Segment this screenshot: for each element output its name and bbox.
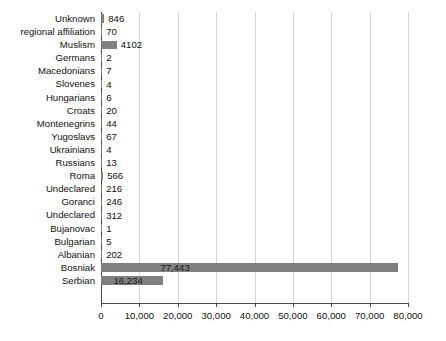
x-axis-tick: [178, 303, 179, 307]
bar-row: 216: [101, 182, 408, 195]
category-label: Bosniak: [0, 261, 99, 274]
bar-value-label: 77,443: [160, 261, 189, 274]
bar: [101, 263, 398, 271]
bar-row: 77,443: [101, 261, 408, 274]
bar-row: 70: [101, 25, 408, 38]
category-label: Montenegrins: [0, 117, 99, 130]
x-tick-label: 30,000: [201, 310, 230, 321]
bar-value-label: 67: [102, 130, 117, 143]
x-axis-tick: [408, 303, 409, 307]
category-label: Undeclared: [0, 182, 99, 195]
category-label: Albanian: [0, 248, 99, 261]
bar-value-label: 202: [102, 248, 122, 261]
x-axis-tick: [216, 303, 217, 307]
bar-row: 1: [101, 222, 408, 235]
category-label: regional affiliation: [0, 25, 99, 38]
bar-value-label: 2: [102, 51, 111, 64]
bar-value-label: 846: [104, 12, 124, 25]
category-label: Ukrainians: [0, 143, 99, 156]
bar-row: 13: [101, 156, 408, 169]
category-label: Unknown: [0, 12, 99, 25]
bar-row: 44: [101, 117, 408, 130]
category-label: Undeclared: [0, 208, 99, 221]
bar: [101, 41, 117, 49]
category-label: Bujanovac: [0, 222, 99, 235]
bar-row: 4102: [101, 38, 408, 51]
bar-row: 16,234: [101, 274, 408, 287]
x-tick-label: 0: [98, 310, 103, 321]
x-axis-tick: [255, 303, 256, 307]
bar-row: 7: [101, 64, 408, 77]
x-axis-tick: [370, 303, 371, 307]
bar-row: 246: [101, 195, 408, 208]
category-label: Germans: [0, 51, 99, 64]
bar-value-label: 1: [102, 222, 111, 235]
bar-value-label: 4102: [117, 38, 142, 51]
bar-row: 67: [101, 130, 408, 143]
bar-row: 202: [101, 248, 408, 261]
bar-value-label: 20: [102, 104, 117, 117]
x-axis-tick-labels: 010,00020,00030,00040,00050,00060,00070,…: [0, 310, 446, 326]
category-label: Goranci: [0, 195, 99, 208]
bar-value-label: 4: [102, 78, 111, 91]
category-label: Yugoslavs: [0, 130, 99, 143]
bar-value-label: 13: [102, 156, 117, 169]
bar-row: 20: [101, 104, 408, 117]
category-label: Russians: [0, 156, 99, 169]
category-label: Muslism: [0, 38, 99, 51]
plot-area: 8467041022746204467413566216246312152027…: [101, 12, 408, 303]
category-label: Roma: [0, 169, 99, 182]
bar-row: 6: [101, 91, 408, 104]
category-label: Bulgarian: [0, 235, 99, 248]
x-axis-tick: [101, 303, 102, 307]
category-label: Hungarians: [0, 91, 99, 104]
x-tick-label: 10,000: [125, 310, 154, 321]
gridline: [408, 12, 409, 303]
bar-chart: Unknownregional affiliationMuslismGerman…: [0, 0, 446, 341]
bar-value-label: 312: [102, 209, 122, 222]
bar-value-label: 7: [102, 64, 111, 77]
x-tick-label: 40,000: [240, 310, 269, 321]
x-tick-label: 50,000: [278, 310, 307, 321]
x-tick-label: 70,000: [355, 310, 384, 321]
bar-value-label: 44: [102, 117, 117, 130]
category-label: Croats: [0, 104, 99, 117]
x-axis-tick: [331, 303, 332, 307]
x-axis-tick: [139, 303, 140, 307]
bar-row: 4: [101, 78, 408, 91]
bar-row: 312: [101, 209, 408, 222]
bar-value-label: 5: [102, 235, 111, 248]
x-tick-label: 60,000: [317, 310, 346, 321]
x-axis-tick: [293, 303, 294, 307]
bar-value-label: 246: [102, 195, 122, 208]
x-tick-label: 80,000: [393, 310, 422, 321]
bar-row: 5: [101, 235, 408, 248]
bar-value-label: 6: [102, 91, 111, 104]
bar-row: 566: [101, 169, 408, 182]
bar-row: 2: [101, 51, 408, 64]
bar-value-label: 566: [103, 169, 123, 182]
category-label: Slovenes: [0, 77, 99, 90]
category-label: Serbian: [0, 274, 99, 287]
bar-value-label: 216: [102, 182, 122, 195]
bar-row: 4: [101, 143, 408, 156]
category-label-column: Unknownregional affiliationMuslismGerman…: [0, 12, 99, 287]
bar-row: 846: [101, 12, 408, 25]
bar-value-label: 4: [102, 143, 111, 156]
x-tick-label: 20,000: [163, 310, 192, 321]
bar-value-label: 70: [102, 25, 117, 38]
bar-value-label: 16,234: [113, 274, 142, 287]
category-label: Macedonians: [0, 64, 99, 77]
